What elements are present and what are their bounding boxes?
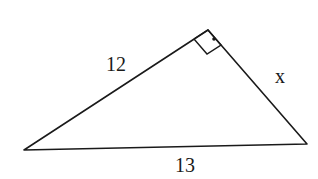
side-label-x: x	[275, 66, 285, 86]
right-angle-marker	[194, 30, 221, 54]
side-label-13: 13	[175, 155, 195, 175]
triangle-outline	[24, 30, 307, 150]
triangle-figure	[0, 0, 318, 179]
right-angle-dot	[212, 37, 216, 41]
triangle-diagram: 12 x 13	[0, 0, 318, 179]
side-label-12: 12	[106, 54, 126, 74]
